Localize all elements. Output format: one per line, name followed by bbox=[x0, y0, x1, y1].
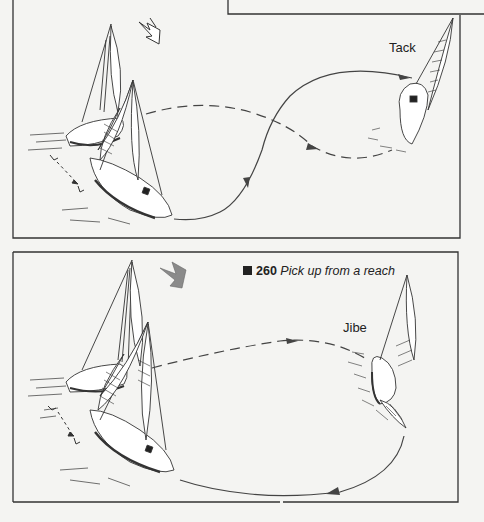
course-arrow-icon bbox=[326, 487, 340, 495]
sailboat-pickup-left-icon bbox=[28, 260, 174, 486]
caption-number: 260 bbox=[256, 264, 277, 278]
sailboat-tacking-icon bbox=[368, 18, 453, 152]
wind-arrow-outline-icon bbox=[139, 18, 160, 44]
wind-arrow-filled-icon bbox=[160, 262, 186, 288]
book-page: Tack Jibe 260 Pick up from a reach bbox=[0, 0, 484, 522]
figure-caption: 260 Pick up from a reach bbox=[243, 264, 395, 278]
course-arrow-icon bbox=[306, 143, 318, 150]
panel-tack-frame bbox=[13, 0, 460, 238]
person-overboard-icon bbox=[48, 406, 80, 444]
course-line-jibe-dashed bbox=[152, 340, 368, 368]
person-overboard-icon bbox=[50, 155, 84, 192]
course-arrow-icon bbox=[286, 338, 298, 344]
sailboat-jibing-icon bbox=[348, 275, 416, 428]
caption-title: Pick up from a reach bbox=[280, 264, 395, 278]
course-line-tack-dashed bbox=[146, 105, 392, 158]
course-line-jibe-solid bbox=[180, 436, 404, 496]
maneuver-label-tack: Tack bbox=[389, 40, 416, 55]
illustration-canvas bbox=[0, 0, 484, 522]
caption-marker-icon bbox=[243, 266, 252, 275]
course-line-tack-solid bbox=[174, 71, 412, 220]
maneuver-label-jibe: Jibe bbox=[343, 320, 367, 335]
sailboat-pickup-left-icon bbox=[28, 24, 172, 224]
top-caption-box-frame bbox=[228, 0, 484, 14]
